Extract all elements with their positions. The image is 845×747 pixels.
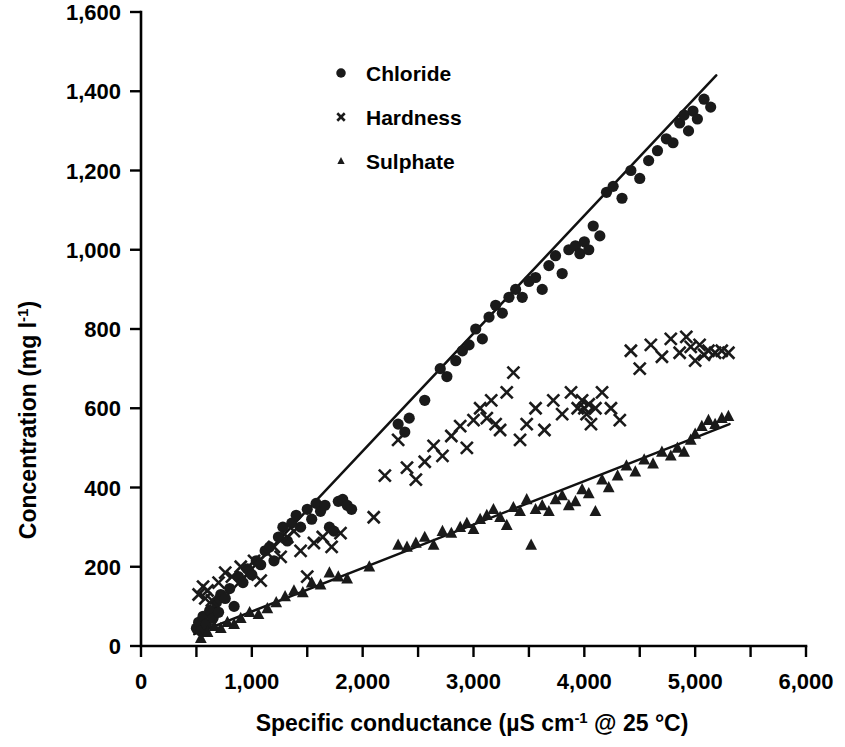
data-point bbox=[436, 450, 448, 462]
data-point bbox=[583, 244, 594, 255]
data-point bbox=[547, 394, 559, 406]
data-point bbox=[485, 394, 497, 406]
data-point bbox=[530, 272, 541, 283]
data-point bbox=[692, 113, 703, 124]
data-point bbox=[550, 250, 561, 261]
y-axis-tick-label: 1,000 bbox=[66, 238, 121, 263]
x-axis-title-unit-post: @ 25 °C) bbox=[588, 710, 689, 736]
data-point bbox=[297, 586, 309, 597]
data-point bbox=[674, 347, 686, 359]
data-point bbox=[368, 511, 380, 523]
data-point bbox=[501, 386, 513, 398]
data-point bbox=[346, 504, 357, 515]
data-point bbox=[461, 517, 473, 528]
data-point bbox=[450, 355, 461, 366]
data-point bbox=[683, 125, 694, 136]
data-point bbox=[497, 308, 508, 319]
legend-marker-cross-icon bbox=[337, 113, 344, 120]
x-axis-tick-label: 5,000 bbox=[668, 669, 723, 694]
y-axis-tick-label: 0 bbox=[109, 634, 121, 659]
data-point bbox=[295, 545, 307, 557]
legend-label: Chloride bbox=[366, 62, 451, 85]
data-point bbox=[667, 137, 678, 148]
data-point bbox=[326, 541, 338, 553]
data-point bbox=[341, 572, 353, 583]
x-axis-title-superscript: -1 bbox=[574, 709, 587, 726]
data-point bbox=[224, 583, 235, 594]
data-point bbox=[521, 493, 533, 504]
data-point bbox=[220, 593, 231, 604]
data-point bbox=[477, 333, 488, 344]
legend-item-chloride[interactable]: Chloride bbox=[336, 62, 451, 85]
data-point bbox=[507, 367, 519, 379]
data-point bbox=[494, 424, 506, 436]
data-point bbox=[556, 408, 568, 420]
axes-layer bbox=[130, 12, 806, 657]
legend-item-sulphate[interactable]: Sulphate bbox=[337, 150, 454, 173]
y-axis-tick-label: 1,200 bbox=[66, 159, 121, 184]
y-axis-title: Concentration (mg l-1) bbox=[14, 301, 41, 539]
data-point bbox=[324, 566, 336, 577]
data-point bbox=[557, 268, 568, 279]
data-point bbox=[419, 531, 431, 542]
data-point bbox=[461, 442, 473, 454]
data-point bbox=[629, 465, 641, 476]
data-point bbox=[404, 413, 415, 424]
data-point bbox=[468, 414, 480, 426]
data-point bbox=[255, 575, 267, 587]
data-point bbox=[625, 345, 637, 357]
x-axis-tick-label: 3,000 bbox=[446, 669, 501, 694]
data-point bbox=[521, 418, 533, 430]
data-point bbox=[319, 500, 330, 511]
data-point bbox=[665, 333, 677, 345]
y-axis-title-superscript: -1 bbox=[14, 309, 31, 322]
legend-label: Sulphate bbox=[366, 150, 455, 173]
data-point bbox=[652, 145, 663, 156]
data-point bbox=[525, 539, 537, 550]
legend-label: Hardness bbox=[366, 106, 462, 129]
y-axis-tick-label: 600 bbox=[84, 396, 121, 421]
data-point bbox=[213, 577, 225, 589]
y-axis-tick-label: 1,400 bbox=[66, 79, 121, 104]
data-point bbox=[530, 402, 542, 414]
data-point bbox=[536, 499, 548, 510]
data-point bbox=[379, 470, 391, 482]
x-axis-title-main: Specific conductance bbox=[256, 710, 492, 736]
data-point bbox=[643, 155, 654, 166]
legend-layer: ChlorideHardnessSulphate bbox=[336, 62, 461, 173]
data-point bbox=[590, 505, 602, 516]
legend-marker-triangle-icon bbox=[337, 157, 344, 164]
data-point bbox=[419, 395, 430, 406]
data-point bbox=[463, 339, 474, 350]
data-point bbox=[594, 230, 605, 241]
data-point bbox=[605, 402, 617, 414]
y-axis-tick-label: 1,600 bbox=[66, 0, 121, 25]
data-point bbox=[705, 102, 716, 113]
chart-container: 02004006008001,0001,2001,4001,60001,0002… bbox=[0, 0, 845, 747]
data-points-layer bbox=[191, 94, 735, 643]
data-point bbox=[229, 601, 240, 612]
data-point bbox=[419, 456, 431, 468]
data-point bbox=[588, 220, 599, 231]
data-point bbox=[645, 339, 657, 351]
data-point bbox=[538, 424, 550, 436]
y-axis-title-main: Concentration (mg l bbox=[15, 322, 41, 539]
data-point bbox=[634, 363, 646, 375]
data-point bbox=[656, 351, 668, 363]
data-point bbox=[625, 165, 636, 176]
data-point bbox=[410, 537, 422, 548]
data-point bbox=[401, 462, 413, 474]
data-point bbox=[306, 514, 317, 525]
data-point bbox=[454, 420, 466, 432]
data-point bbox=[514, 434, 526, 446]
data-point bbox=[537, 284, 548, 295]
data-point bbox=[616, 193, 627, 204]
legend-marker-circle-icon bbox=[336, 68, 346, 78]
x-axis-tick-label: 6,000 bbox=[778, 669, 833, 694]
data-point bbox=[596, 386, 608, 398]
y-axis-tick-label: 400 bbox=[84, 476, 121, 501]
data-point bbox=[437, 525, 449, 536]
data-point bbox=[565, 386, 577, 398]
legend-item-hardness[interactable]: Hardness bbox=[337, 106, 461, 129]
y-axis-tick-label: 800 bbox=[84, 317, 121, 342]
